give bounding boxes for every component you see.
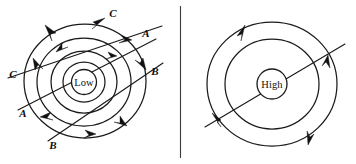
flow-arrow-bottom-right xyxy=(114,116,127,126)
axis-label-a-right: A xyxy=(141,27,149,39)
flow-arrow-right xyxy=(135,58,146,70)
high-pressure-panel: High xyxy=(205,22,345,146)
axis-label-c-top: C xyxy=(109,7,117,19)
flow-arrow-inner-left xyxy=(56,43,68,52)
high-flow-arrow-top-left xyxy=(237,25,245,41)
low-center-label: Low xyxy=(74,77,94,88)
high-flow-arrow-bottom-left xyxy=(212,113,221,127)
flow-arrow-top xyxy=(92,18,105,29)
figure-canvas: Low C A B C A B High xyxy=(0,0,356,164)
axis-label-c-left: C xyxy=(9,68,17,80)
high-flow-arrow-bottom-right xyxy=(307,131,314,145)
flow-arrow-inner-right xyxy=(106,52,117,59)
axis-label-b-bottom: B xyxy=(48,139,56,151)
high-center-label: High xyxy=(261,79,283,90)
axis-label-b-right: B xyxy=(150,65,158,77)
axis-label-a-left: A xyxy=(18,107,26,119)
low-pressure-panel: Low C A B C A B xyxy=(8,7,163,151)
pressure-systems-figure: Low C A B C A B High xyxy=(0,0,356,164)
flow-arrow-top-left xyxy=(45,25,56,41)
